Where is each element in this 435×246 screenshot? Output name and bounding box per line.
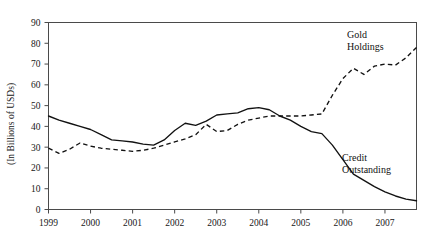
y-tick-label: 70: [31, 59, 41, 69]
x-tick-label: 2005: [291, 218, 310, 228]
y-tick-label: 0: [36, 205, 41, 215]
y-tick-label: 50: [31, 101, 41, 111]
annotation-gold-holdings-line2: Holdings: [347, 41, 384, 52]
x-tick-label: 2007: [375, 218, 394, 228]
x-tick-label: 2000: [81, 218, 100, 228]
y-tick-label: 30: [31, 143, 41, 153]
x-axis-tick-labels: 199920002001200220032004200520062007: [39, 218, 395, 228]
y-axis-title-label: (In Billions of USDs): [6, 83, 17, 165]
y-tick-label: 10: [31, 184, 41, 194]
y-tick-label: 60: [31, 80, 41, 90]
x-tick-label: 2004: [249, 218, 268, 228]
y-tick-label: 80: [31, 39, 41, 49]
y-axis-tick-labels: 0102030405060708090: [31, 18, 41, 215]
y-tick-label: 90: [31, 18, 41, 28]
chart-container: (In Billions of USDs) 010203040506070809…: [0, 0, 435, 246]
x-tick-label: 2002: [165, 218, 184, 228]
annotation-gold-holdings: Gold Holdings: [347, 29, 384, 52]
y-tick-label: 20: [31, 163, 41, 173]
series-line-gold-holdings: [49, 47, 417, 153]
annotation-gold-holdings-line1: Gold: [347, 29, 367, 40]
annotation-credit-outstanding-line2: Outstanding: [342, 164, 391, 175]
x-tick-label: 2003: [207, 218, 226, 228]
line-chart: (In Billions of USDs) 010203040506070809…: [0, 0, 435, 246]
annotation-credit-outstanding: Credit Outstanding: [342, 152, 391, 175]
y-axis-title: (In Billions of USDs): [6, 83, 17, 165]
x-axis-tick-marks: [49, 210, 385, 214]
annotation-credit-outstanding-line1: Credit: [342, 152, 367, 163]
x-tick-label: 2006: [333, 218, 352, 228]
y-tick-label: 40: [31, 122, 41, 132]
x-tick-label: 2001: [123, 218, 142, 228]
x-tick-label: 1999: [39, 218, 58, 228]
